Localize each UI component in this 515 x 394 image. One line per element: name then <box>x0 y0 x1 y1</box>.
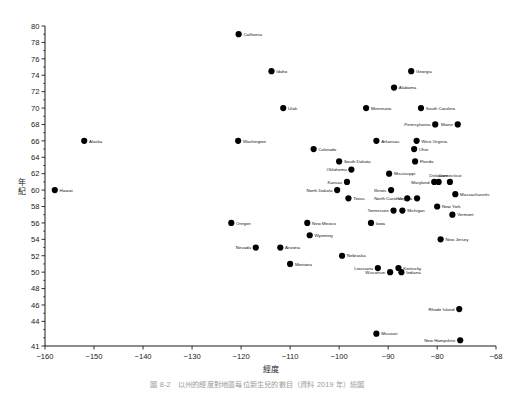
y-tick-label: 68 <box>31 120 39 129</box>
y-tick-label: 56 <box>31 219 39 228</box>
y-tick-label: 64 <box>31 153 39 162</box>
x-tick-label: −150 <box>85 352 102 361</box>
data-point-marker <box>388 187 394 193</box>
y-tick-label: 80 <box>31 22 39 31</box>
data-point: Ohio <box>411 146 429 152</box>
data-point-marker <box>52 187 58 193</box>
data-point-label: Illinois <box>374 188 387 193</box>
data-point: Kansas <box>328 179 351 185</box>
y-tick-label: 48 <box>31 284 39 293</box>
data-point-marker <box>411 146 417 152</box>
data-point: Maryland <box>411 179 437 185</box>
data-point-label: Idaho <box>276 69 288 74</box>
data-point-marker <box>457 337 463 343</box>
data-point: Missouri <box>373 331 397 337</box>
data-point-label: New Mexico <box>312 221 336 226</box>
y-tick-label: 46 <box>31 301 39 310</box>
data-point-marker <box>311 146 317 152</box>
data-point: Arkansas <box>373 138 400 144</box>
data-point-label: Georgia <box>416 69 432 74</box>
y-tick-label: 44 <box>31 317 39 326</box>
y-tick-label: 76 <box>31 55 39 64</box>
data-point: Wyoming <box>307 232 334 238</box>
data-point-marker <box>398 269 404 275</box>
data-point-label: Washington <box>243 139 267 144</box>
data-point-label: California <box>243 32 262 37</box>
data-points-group: HawaiiAlaskaOregonCaliforniaWashingtonNe… <box>52 31 490 343</box>
data-point: Alaska <box>81 138 103 144</box>
data-point-label: Michigan <box>407 208 425 213</box>
data-point: Texas <box>345 195 365 201</box>
data-point-label: Mississippi <box>394 171 415 176</box>
data-point-label: Arizona <box>285 245 300 250</box>
data-point: New Jersey <box>438 236 470 242</box>
data-point: Connecticut <box>438 173 462 185</box>
data-point-marker <box>373 138 379 144</box>
data-point-label: Oregon <box>236 221 251 226</box>
data-point: Hawaii <box>52 187 73 193</box>
data-point: Massachusetts <box>452 191 490 197</box>
data-point-marker <box>228 220 234 226</box>
data-point-label: Missouri <box>381 331 397 336</box>
data-point-marker <box>287 261 293 267</box>
data-point-marker <box>280 105 286 111</box>
data-point-marker <box>432 121 438 127</box>
data-point-marker <box>412 158 418 164</box>
data-point: New York <box>434 203 461 209</box>
data-point-marker <box>390 208 396 214</box>
data-point-marker <box>408 68 414 74</box>
data-point: Washington <box>235 138 266 144</box>
y-tick-label: 78 <box>31 38 39 47</box>
data-point: Oregon <box>228 220 251 226</box>
data-point-marker <box>334 187 340 193</box>
data-point-marker <box>339 253 345 259</box>
figure-container: 4144464850525456586062646668707274767880… <box>0 0 515 394</box>
data-point-marker <box>304 220 310 226</box>
data-point-label: Massachusetts <box>460 192 490 197</box>
data-point-label: New Jersey <box>445 237 469 242</box>
data-point-marker <box>414 195 420 201</box>
data-point-label: Nebraska <box>347 253 366 258</box>
data-point: Maine <box>441 121 461 127</box>
data-point: California <box>236 31 263 37</box>
y-axis-title-char: 紀 <box>18 186 26 196</box>
data-point: South Dakota <box>336 158 371 164</box>
data-point-label: South Dakota <box>344 159 371 164</box>
data-point-marker <box>456 306 462 312</box>
data-point: Florida <box>412 158 434 164</box>
data-point-marker <box>399 208 405 214</box>
data-point-marker <box>452 191 458 197</box>
data-point-label: South Carolina <box>426 106 456 111</box>
y-tick-label: 60 <box>31 186 39 195</box>
data-point: Virginia <box>398 195 420 201</box>
data-point: Pennsylvania <box>404 121 438 127</box>
data-point: Rhode Island <box>429 306 463 312</box>
data-point-label: Alaska <box>89 139 103 144</box>
data-point-marker <box>235 138 241 144</box>
x-axis-title: 經度 <box>263 364 279 374</box>
data-point-marker <box>373 331 379 337</box>
data-point-marker <box>386 171 392 177</box>
data-point: Mississippi <box>386 171 415 177</box>
data-point-label: Oklahoma <box>327 167 348 172</box>
y-tick-label: 52 <box>31 252 39 261</box>
data-point-label: North Dakota <box>306 188 332 193</box>
y-tick-label: 54 <box>31 235 39 244</box>
data-point-marker <box>345 195 351 201</box>
data-point: Nevada <box>236 244 259 250</box>
data-point-marker <box>391 84 397 90</box>
data-point: North Dakota <box>306 187 340 193</box>
data-point-marker <box>336 158 342 164</box>
data-point-label: Alabama <box>399 85 417 90</box>
data-point: Arizona <box>277 244 300 250</box>
data-point: Indiana <box>398 269 421 275</box>
data-point-label: Nevada <box>236 245 252 250</box>
data-point: Idaho <box>268 68 287 74</box>
data-point-marker <box>436 179 442 185</box>
data-point-label: New Hampshire <box>424 338 456 343</box>
data-point-label: Kansas <box>328 180 343 185</box>
data-point: Iowa <box>368 220 386 226</box>
data-point-label: Indiana <box>406 270 421 275</box>
y-tick-label: 50 <box>31 268 39 277</box>
data-point-marker <box>449 212 455 218</box>
